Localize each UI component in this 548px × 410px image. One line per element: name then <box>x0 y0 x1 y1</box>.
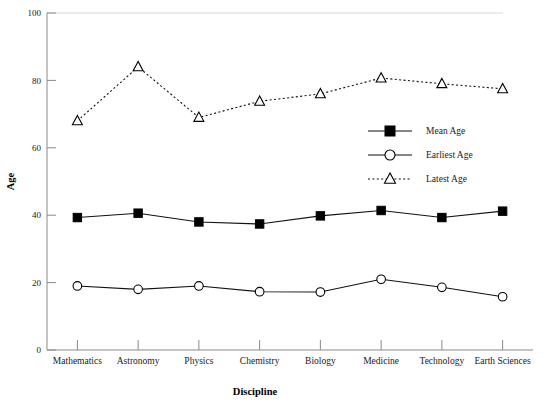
x-tick-label: Earth Sciences <box>475 356 531 366</box>
chart-container: 020406080100MathematicsAstronomyPhysicsC… <box>0 0 548 410</box>
x-tick-label: Medicine <box>363 356 399 366</box>
x-tick-label: Mathematics <box>53 356 102 366</box>
data-point-marker[interactable] <box>255 287 264 296</box>
y-tick-label: 80 <box>32 76 42 86</box>
data-point-marker[interactable] <box>498 83 508 92</box>
series-line-2 <box>77 67 502 121</box>
y-tick-label: 0 <box>37 345 42 355</box>
data-point-marker[interactable] <box>316 288 325 297</box>
data-point-marker[interactable] <box>134 285 143 294</box>
y-tick-label: 40 <box>32 210 42 220</box>
x-tick-label: Chemistry <box>240 356 280 366</box>
y-axis-title: Age <box>5 172 16 190</box>
data-point-marker[interactable] <box>255 220 263 228</box>
legend-marker-0 <box>385 126 395 136</box>
data-point-marker[interactable] <box>376 73 386 82</box>
data-point-marker[interactable] <box>377 206 385 214</box>
legend-label-2: Latest Age <box>426 174 467 184</box>
data-point-marker[interactable] <box>73 282 82 291</box>
legend-marker-1 <box>385 150 395 160</box>
x-tick-label: Technology <box>420 356 465 366</box>
y-tick-label: 20 <box>32 278 42 288</box>
data-point-marker[interactable] <box>437 78 447 87</box>
data-point-marker[interactable] <box>438 283 447 292</box>
data-point-marker[interactable] <box>195 282 204 291</box>
y-tick-label: 100 <box>28 8 42 18</box>
x-axis-title: Discipline <box>233 386 278 397</box>
y-tick-label: 60 <box>32 143 42 153</box>
legend-marker-2 <box>384 173 395 183</box>
data-point-marker[interactable] <box>72 115 82 124</box>
data-point-marker[interactable] <box>498 292 507 301</box>
data-point-marker[interactable] <box>133 62 143 71</box>
line-chart: 020406080100MathematicsAstronomyPhysicsC… <box>0 0 548 410</box>
data-point-marker[interactable] <box>134 209 142 217</box>
legend-label-0: Mean Age <box>426 126 465 136</box>
x-tick-label: Biology <box>305 356 336 366</box>
legend-label-1: Earliest Age <box>426 150 473 160</box>
data-point-marker[interactable] <box>255 96 265 105</box>
data-point-marker[interactable] <box>377 275 386 284</box>
x-tick-label: Physics <box>184 356 213 366</box>
data-point-marker[interactable] <box>195 218 203 226</box>
data-point-marker[interactable] <box>438 213 446 221</box>
data-point-marker[interactable] <box>73 213 81 221</box>
data-point-marker[interactable] <box>316 212 324 220</box>
x-tick-label: Astronomy <box>117 356 160 366</box>
data-point-marker[interactable] <box>498 207 506 215</box>
